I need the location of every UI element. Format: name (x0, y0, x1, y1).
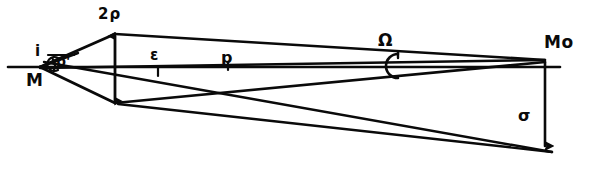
bottom-return-line (118, 104, 552, 152)
label-p: p (221, 50, 232, 66)
upper-long-ray (115, 34, 545, 60)
label-omega: Ω (378, 32, 392, 49)
label-epsilon: ε (150, 48, 158, 63)
label-sigma: σ (518, 108, 530, 124)
diagram-vector-layer (0, 0, 602, 175)
label-vertex-Mo: Mo (544, 34, 574, 51)
label-two-rho: 2ρ (98, 7, 121, 22)
crossing-ray-down (44, 62, 552, 152)
label-angle-rho-prime: ρ' (56, 54, 70, 68)
label-vertex-M: M (26, 72, 43, 89)
diagram-canvas: M i ρ' 2ρ ε p Ω Mo σ (0, 0, 602, 175)
label-angle-i: i (35, 44, 40, 59)
